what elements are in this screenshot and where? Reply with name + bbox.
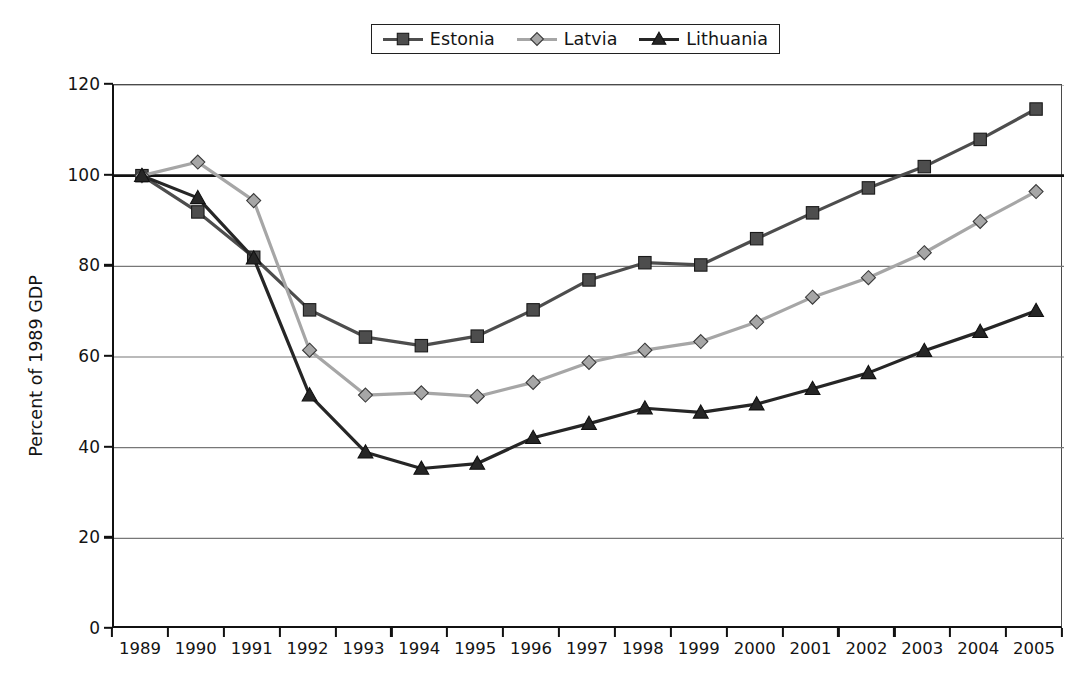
x-axis-tick-mark bbox=[167, 628, 169, 637]
x-axis-tick-label: 1998 bbox=[613, 639, 673, 658]
x-axis-tick-label: 1992 bbox=[278, 639, 338, 658]
data-point-diamond bbox=[861, 271, 875, 285]
data-point-diamond bbox=[973, 214, 987, 228]
x-axis-tick-mark bbox=[223, 628, 225, 637]
x-axis-tick-mark bbox=[279, 628, 281, 637]
x-axis-tick-mark bbox=[670, 628, 672, 637]
x-axis-tick-mark bbox=[111, 628, 113, 637]
legend-swatch-diamond-icon bbox=[517, 32, 557, 46]
data-point-square bbox=[806, 207, 818, 219]
x-axis-tick-mark bbox=[1005, 628, 1007, 637]
x-axis-tick-label: 1996 bbox=[501, 639, 561, 658]
x-axis-tick-label: 2002 bbox=[836, 639, 896, 658]
series-estonia bbox=[136, 103, 1043, 352]
y-axis-title: Percent of 1989 GDP bbox=[26, 216, 46, 516]
data-point-square bbox=[527, 304, 539, 316]
data-point-square bbox=[303, 304, 315, 316]
x-axis-tick-label: 1997 bbox=[557, 639, 617, 658]
legend-item-latvia[interactable]: Latvia bbox=[513, 29, 622, 49]
data-point-diamond bbox=[530, 33, 543, 46]
y-axis-tick-mark bbox=[104, 264, 113, 266]
y-axis-tick-mark bbox=[104, 173, 113, 175]
data-point-diamond bbox=[917, 246, 931, 260]
x-axis-tick-label: 2003 bbox=[892, 639, 952, 658]
legend-marker-square-icon bbox=[392, 29, 414, 49]
y-axis-tick-label: 60 bbox=[44, 346, 100, 366]
x-axis-tick-mark bbox=[893, 628, 895, 637]
data-point-square bbox=[695, 259, 707, 271]
data-point-square bbox=[639, 257, 651, 269]
x-axis-tick-label: 2000 bbox=[725, 639, 785, 658]
legend-label: Lithuania bbox=[686, 29, 768, 49]
y-axis-tick-mark bbox=[104, 536, 113, 538]
data-point-square bbox=[471, 330, 483, 342]
data-point-triangle bbox=[302, 388, 317, 401]
data-point-diamond bbox=[638, 343, 652, 357]
x-axis-tick-mark bbox=[502, 628, 504, 637]
legend-marker-diamond-icon bbox=[526, 29, 548, 49]
data-point-triangle bbox=[652, 32, 666, 44]
legend-swatch-triangle-icon bbox=[639, 32, 679, 46]
x-axis-tick-mark bbox=[1061, 628, 1063, 637]
y-axis-tick-label: 120 bbox=[44, 74, 100, 94]
gdp-line-chart: EstoniaLatviaLithuania 02040608010012019… bbox=[0, 0, 1083, 687]
data-point-diamond bbox=[694, 335, 708, 349]
y-axis-tick-mark bbox=[104, 445, 113, 447]
data-point-diamond bbox=[1029, 185, 1043, 199]
x-axis-tick-label: 1989 bbox=[110, 639, 170, 658]
data-point-square bbox=[750, 232, 762, 244]
data-point-square bbox=[415, 339, 427, 351]
data-point-square bbox=[359, 331, 371, 343]
x-axis-tick-label: 1991 bbox=[222, 639, 282, 658]
x-axis-tick-label: 1999 bbox=[669, 639, 729, 658]
data-point-square bbox=[192, 206, 204, 218]
data-point-diamond bbox=[470, 389, 484, 403]
y-axis-tick-label: 40 bbox=[44, 437, 100, 457]
legend-label: Latvia bbox=[564, 29, 618, 49]
x-axis-tick-mark bbox=[781, 628, 783, 637]
y-axis-tick-label: 100 bbox=[44, 165, 100, 185]
x-axis-tick-mark bbox=[446, 628, 448, 637]
data-point-square bbox=[918, 160, 930, 172]
chart-legend: EstoniaLatviaLithuania bbox=[371, 24, 780, 54]
x-axis-tick-mark bbox=[949, 628, 951, 637]
y-axis-tick-mark bbox=[104, 355, 113, 357]
x-axis-tick-label: 1994 bbox=[389, 639, 449, 658]
legend-marker-triangle-icon bbox=[648, 29, 670, 49]
legend-item-lithuania[interactable]: Lithuania bbox=[635, 29, 772, 49]
x-axis-tick-mark bbox=[726, 628, 728, 637]
x-axis-tick-mark bbox=[837, 628, 839, 637]
data-point-square bbox=[1030, 103, 1042, 115]
x-axis-tick-label: 1995 bbox=[445, 639, 505, 658]
data-point-diamond bbox=[806, 290, 820, 304]
data-point-diamond bbox=[750, 315, 764, 329]
series-lithuania bbox=[135, 168, 1044, 474]
data-point-square bbox=[862, 182, 874, 194]
y-axis-tick-mark bbox=[104, 83, 113, 85]
legend-swatch-square-icon bbox=[383, 32, 423, 46]
x-axis-tick-mark bbox=[558, 628, 560, 637]
data-point-diamond bbox=[526, 375, 540, 389]
legend-label: Estonia bbox=[430, 29, 495, 49]
plot-area bbox=[112, 84, 1062, 628]
plot-svg bbox=[114, 85, 1064, 629]
data-point-triangle bbox=[1029, 303, 1044, 316]
x-axis-tick-mark bbox=[614, 628, 616, 637]
x-axis-tick-label: 1990 bbox=[166, 639, 226, 658]
y-axis-tick-label: 20 bbox=[44, 527, 100, 547]
y-axis-tick-label: 80 bbox=[44, 255, 100, 275]
x-axis-tick-mark bbox=[334, 628, 336, 637]
data-point-square bbox=[974, 133, 986, 145]
x-axis-tick-label: 2001 bbox=[781, 639, 841, 658]
x-axis-tick-label: 2005 bbox=[1004, 639, 1064, 658]
data-point-diamond bbox=[414, 386, 428, 400]
y-axis-tick-label: 0 bbox=[44, 618, 100, 638]
x-axis-tick-label: 2004 bbox=[948, 639, 1008, 658]
data-point-square bbox=[583, 274, 595, 286]
data-point-square bbox=[397, 33, 408, 44]
x-axis-tick-mark bbox=[390, 628, 392, 637]
x-axis-tick-label: 1993 bbox=[333, 639, 393, 658]
legend-item-estonia[interactable]: Estonia bbox=[379, 29, 499, 49]
